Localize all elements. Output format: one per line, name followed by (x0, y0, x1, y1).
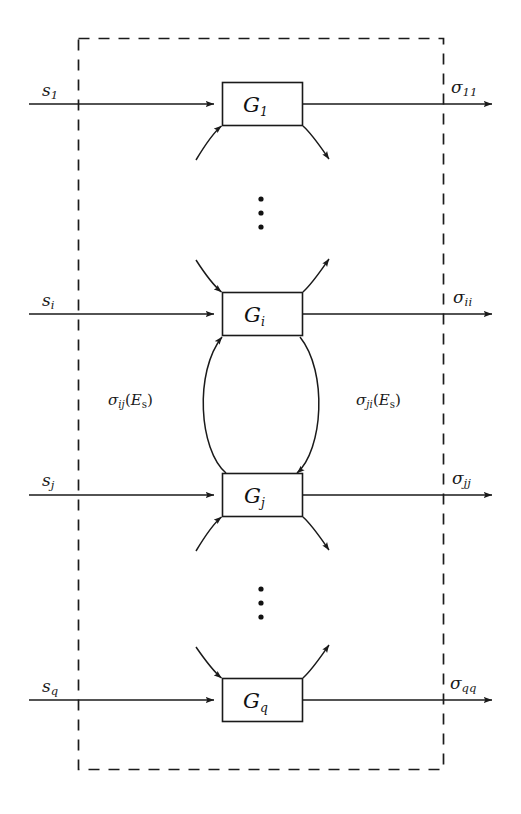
row-1-block-label: G1 (243, 94, 268, 118)
row-q-block-label: Gq (243, 690, 268, 714)
row-j-input-label: sj (42, 472, 54, 492)
mutual-coupling-loop (203, 337, 319, 473)
row-1-coupling-arrows (196, 126, 329, 160)
row-q-input-label: sq (42, 678, 58, 698)
row-q-output-label: σqq (450, 675, 477, 695)
row-j-lower-coupling-arrows (196, 517, 329, 551)
row-i-output-label: σii (453, 289, 472, 309)
row-i-upper-coupling-arrows (196, 259, 329, 292)
figure-canvas: s1 G1 σ11 ⋮ si Gi σii σij(Es) σji(Es) sj… (0, 0, 521, 814)
coupling-label-left: σij(Es) (108, 393, 153, 410)
row-i-input-label: si (42, 292, 55, 312)
row-1-input-label: s1 (42, 82, 58, 102)
row-i-block-label: Gi (244, 304, 265, 328)
coupling-label-right: σji(Es) (356, 393, 401, 410)
row-q-upper-coupling-arrows (196, 645, 329, 678)
row-1-output-label: σ11 (451, 79, 478, 99)
row-j-block-label: Gj (244, 485, 265, 509)
row-j-output-label: σjj (452, 470, 471, 490)
